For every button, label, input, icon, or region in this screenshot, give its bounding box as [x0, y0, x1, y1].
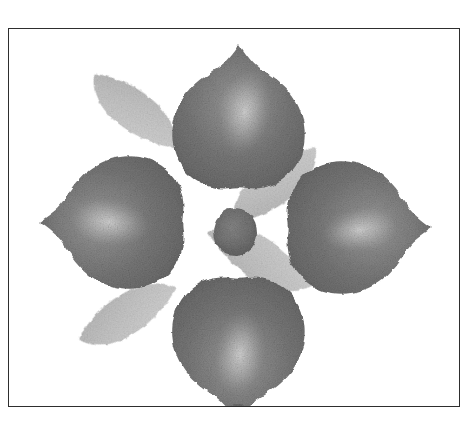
plate-border-frame — [8, 28, 460, 407]
petal-bottom-stem — [233, 404, 243, 424]
screenshot-canvas: Floral print plate Monochrome halftone p… — [0, 0, 471, 436]
